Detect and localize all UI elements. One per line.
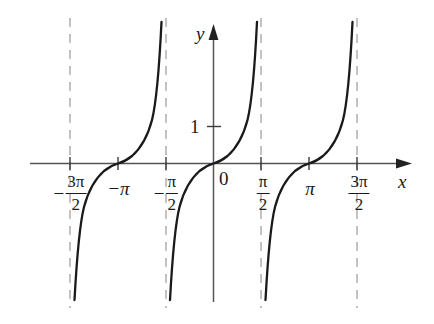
tangent-function-graph: y x 1 0 − 3π 2 − π − π 2 π 2 π — [0, 0, 434, 324]
fraction: 3π 2 — [65, 172, 86, 215]
fraction-numerator: π — [166, 172, 179, 194]
x-axis-label: x — [398, 172, 406, 191]
x-axis-arrowhead — [396, 158, 412, 168]
fraction-denominator: 2 — [166, 194, 179, 215]
fraction-numerator: 3π — [348, 172, 369, 194]
origin-label: 0 — [219, 169, 229, 188]
fraction-denominator: 2 — [257, 194, 270, 215]
fraction-denominator: 2 — [65, 194, 86, 215]
fraction: π 2 — [257, 172, 270, 215]
y-tick-label-one: 1 — [190, 117, 200, 136]
x-tick-label-neg-3pi-over-2: − 3π 2 — [54, 172, 87, 215]
fraction-denominator: 2 — [348, 194, 369, 215]
x-tick-label-neg-pi-over-2: − π 2 — [154, 172, 178, 215]
y-axis-arrowhead — [209, 24, 219, 40]
x-tick-label-neg-pi: − π — [108, 178, 129, 200]
pi-symbol: π — [120, 178, 130, 200]
fraction: 3π 2 — [348, 172, 369, 215]
minus-sign-icon: − — [154, 183, 166, 205]
y-axis-label: y — [196, 24, 204, 43]
fraction-numerator: 3π — [65, 172, 86, 194]
minus-sign-icon: − — [54, 183, 66, 205]
x-tick-label-pi-over-2: π 2 — [257, 172, 270, 215]
fraction: π 2 — [166, 172, 179, 215]
x-tick-label-pi: π — [305, 178, 315, 200]
fraction-numerator: π — [257, 172, 270, 194]
pi-symbol: π — [305, 178, 315, 200]
x-tick-label-3pi-over-2: 3π 2 — [348, 172, 369, 215]
minus-sign-icon: − — [108, 178, 120, 200]
graph-canvas — [0, 0, 434, 324]
